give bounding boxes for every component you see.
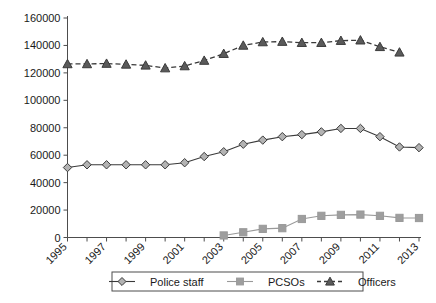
data-point-marker xyxy=(279,225,286,232)
x-axis-tick-label: 2007 xyxy=(277,240,303,266)
x-axis-tick-label: 2005 xyxy=(238,240,264,266)
data-point-marker xyxy=(63,163,71,171)
data-point-marker xyxy=(318,212,325,219)
data-point-marker xyxy=(141,161,149,169)
data-point-marker xyxy=(337,124,345,132)
series-line xyxy=(68,40,400,68)
y-axis-tick-label: 60000 xyxy=(30,149,61,161)
data-point-marker xyxy=(357,211,364,218)
data-point-marker xyxy=(396,214,403,221)
data-point-marker xyxy=(180,159,188,167)
x-axis-tick-label: 2003 xyxy=(199,240,225,266)
data-point-marker xyxy=(220,148,228,156)
data-point-marker xyxy=(337,211,344,218)
y-axis-tick-label: 120000 xyxy=(24,67,61,79)
x-axis-tick-label: 2013 xyxy=(395,240,421,266)
chart-container: 0200004000060000800001000001200001400001… xyxy=(0,0,436,303)
legend-label: Police staff xyxy=(150,276,205,288)
data-point-marker xyxy=(356,124,364,132)
data-point-marker xyxy=(239,140,247,148)
data-point-marker xyxy=(317,38,326,46)
y-axis-tick-label: 160000 xyxy=(24,12,61,24)
series-layer xyxy=(63,36,423,239)
data-point-marker xyxy=(259,136,267,144)
data-point-marker xyxy=(200,152,208,160)
data-point-marker xyxy=(83,161,91,169)
data-point-marker xyxy=(161,63,170,71)
data-point-marker xyxy=(395,48,404,56)
y-axis-tick-label: 20000 xyxy=(30,204,61,216)
data-point-marker xyxy=(317,128,325,136)
chart-legend: Police staffPCSOsOfficers xyxy=(109,272,396,291)
data-point-marker xyxy=(161,161,169,169)
legend-label: Officers xyxy=(358,276,396,288)
data-point-marker xyxy=(278,132,286,140)
data-point-marker xyxy=(395,143,403,151)
data-point-marker xyxy=(278,37,287,45)
x-axis-tick-label: 1997 xyxy=(82,240,108,266)
data-point-marker xyxy=(376,212,383,219)
y-axis-tick-label: 100000 xyxy=(24,94,61,106)
data-point-marker xyxy=(415,143,423,151)
data-point-marker xyxy=(237,278,244,285)
y-axis-tick-label: 80000 xyxy=(30,122,61,134)
data-point-marker xyxy=(102,161,110,169)
y-axis-tick-label: 40000 xyxy=(30,177,61,189)
y-axis-tick-label: 140000 xyxy=(24,39,61,51)
data-point-marker xyxy=(122,161,130,169)
data-point-marker xyxy=(200,56,209,64)
y-axis: 0200004000060000800001000001200001400001… xyxy=(24,12,68,244)
data-point-marker xyxy=(219,49,228,57)
data-point-marker xyxy=(240,229,247,236)
data-point-marker xyxy=(121,60,130,68)
x-axis: 1995199719992001200320052007200920112013 xyxy=(43,238,421,267)
x-axis-tick-label: 2009 xyxy=(317,240,343,266)
data-point-marker xyxy=(259,225,266,232)
data-point-marker xyxy=(220,232,227,239)
series-pcsos xyxy=(220,211,422,239)
data-point-marker xyxy=(415,214,422,221)
x-axis-tick-label: 2001 xyxy=(160,240,186,266)
data-point-marker xyxy=(376,132,384,140)
data-point-marker xyxy=(298,215,305,222)
x-axis-tick-label: 1995 xyxy=(43,240,69,266)
series-officers xyxy=(63,36,404,72)
data-point-marker xyxy=(356,36,365,44)
data-point-marker xyxy=(298,130,306,138)
x-axis-tick-label: 1999 xyxy=(121,240,147,266)
series-police-staff xyxy=(63,124,423,171)
line-chart: 0200004000060000800001000001200001400001… xyxy=(0,0,436,303)
legend-label: PCSOs xyxy=(268,276,305,288)
data-point-marker xyxy=(239,41,248,49)
x-axis-tick-label: 2011 xyxy=(356,240,381,265)
